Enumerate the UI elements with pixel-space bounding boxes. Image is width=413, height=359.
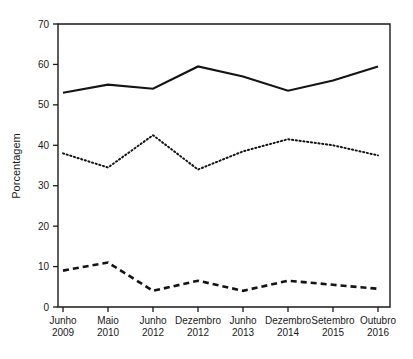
x-tick-label-year: 2012 — [142, 327, 165, 338]
line-chart: 010203040506070 Junho2009Maio2010Junho20… — [0, 0, 413, 359]
y-tick-label: 10 — [38, 261, 50, 272]
x-tick-label-month: Dezembro — [265, 315, 312, 326]
x-tick-label-month: Maio — [97, 315, 119, 326]
x-tick-label-month: Junho — [229, 315, 257, 326]
x-tick-label-year: 2014 — [277, 327, 300, 338]
series-line-1 — [63, 66, 378, 92]
y-tick-label: 30 — [38, 180, 50, 191]
x-tick-label-month: Setembro — [311, 315, 355, 326]
x-tick-label-month: Junho — [139, 315, 167, 326]
x-axis-ticks: Junho2009Maio2010Junho2012Dezembro2012Ju… — [49, 307, 396, 338]
series-line-3 — [63, 263, 378, 291]
series-line-2 — [63, 135, 378, 169]
x-tick-label-month: Dezembro — [175, 315, 222, 326]
x-tick-label-year: 2013 — [232, 327, 255, 338]
data-series-group — [63, 66, 378, 290]
x-tick-label-year: 2015 — [322, 327, 345, 338]
y-tick-label: 0 — [43, 302, 49, 313]
y-tick-label: 60 — [38, 59, 50, 70]
y-tick-label: 70 — [38, 19, 50, 30]
y-tick-label: 40 — [38, 140, 50, 151]
y-axis-title: Porcentagem — [10, 133, 22, 198]
x-tick-label-year: 2010 — [97, 327, 120, 338]
x-tick-label-year: 2009 — [52, 327, 75, 338]
y-tick-label: 20 — [38, 221, 50, 232]
x-tick-label-year: 2012 — [187, 327, 210, 338]
plot-frame — [58, 24, 390, 307]
x-tick-label-month: Outubro — [360, 315, 397, 326]
y-tick-label: 50 — [38, 99, 50, 110]
x-tick-label-month: Junho — [49, 315, 77, 326]
y-axis-ticks: 010203040506070 — [38, 19, 58, 313]
x-tick-label-year: 2016 — [367, 327, 390, 338]
chart-plot-area: 010203040506070 Junho2009Maio2010Junho20… — [0, 0, 413, 359]
